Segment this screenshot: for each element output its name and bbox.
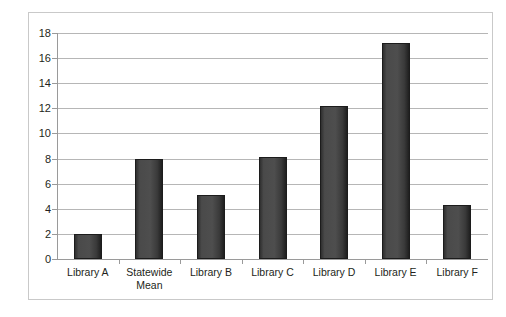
gridline	[57, 133, 488, 134]
gridline	[57, 108, 488, 109]
bar	[382, 43, 410, 259]
y-axis-tick-mark	[52, 33, 57, 34]
y-axis-tick-mark	[52, 259, 57, 260]
bar	[443, 205, 471, 259]
y-axis-tick-mark	[52, 58, 57, 59]
category-tick-mark	[303, 259, 304, 264]
y-axis-tick-mark	[52, 234, 57, 235]
x-axis-category-label: Library A	[57, 266, 119, 279]
bar	[197, 195, 225, 259]
bar	[135, 159, 163, 259]
y-axis-tick-mark	[52, 133, 57, 134]
y-axis-tick-mark	[52, 184, 57, 185]
category-tick-mark	[365, 259, 366, 264]
bar	[74, 234, 102, 259]
category-tick-mark	[426, 259, 427, 264]
value-axis-line	[57, 33, 58, 260]
bar	[259, 157, 287, 259]
gridline	[57, 33, 488, 34]
x-axis-category-label: Library F	[426, 266, 488, 279]
category-tick-mark	[180, 259, 181, 264]
y-axis-tick-mark	[52, 159, 57, 160]
y-axis-tick-mark	[52, 108, 57, 109]
gridline	[57, 58, 488, 59]
category-tick-mark	[119, 259, 120, 264]
bar-chart: 024681012141618 Library AStatewide MeanL…	[0, 0, 506, 317]
x-axis-category-label: Library D	[303, 266, 365, 279]
bar	[320, 106, 348, 259]
y-axis-tick-mark	[52, 83, 57, 84]
x-axis-category-label: Library C	[242, 266, 304, 279]
x-axis-category-label: Library B	[180, 266, 242, 279]
y-axis-tick-mark	[52, 209, 57, 210]
category-axis-line	[57, 259, 488, 260]
x-axis-category-label: Statewide Mean	[119, 266, 181, 291]
x-axis-category-label: Library E	[365, 266, 427, 279]
gridlines	[0, 33, 506, 259]
gridline	[57, 83, 488, 84]
category-tick-mark	[242, 259, 243, 264]
